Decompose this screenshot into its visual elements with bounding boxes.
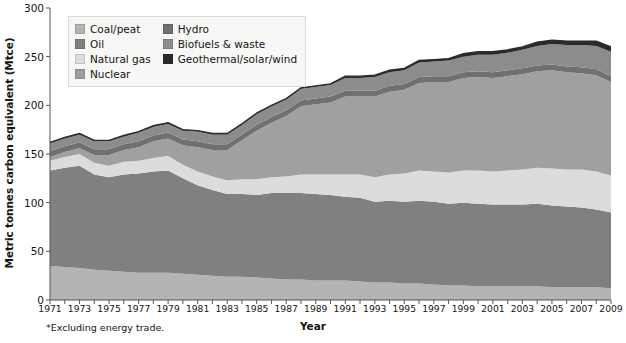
legend-item[interactable]: Biofuels & waste bbox=[163, 37, 297, 51]
x-tick-label: 2009 bbox=[599, 303, 622, 314]
x-tick-label: 1977 bbox=[127, 303, 150, 314]
legend-item-label: Oil bbox=[90, 37, 104, 51]
legend-item[interactable]: Nuclear bbox=[75, 67, 151, 81]
x-tick-label: 1975 bbox=[97, 303, 120, 314]
energy-supply-area-chart: Metric tonnes carbon equivalent (Mtce) 0… bbox=[0, 0, 626, 343]
y-tick-label: 100 bbox=[18, 197, 44, 209]
legend-swatch-icon bbox=[163, 39, 173, 49]
x-tick-label: 1987 bbox=[275, 303, 298, 314]
y-tick-label: 50 bbox=[18, 245, 44, 257]
legend-swatch-icon bbox=[75, 39, 85, 49]
legend-item[interactable]: Natural gas bbox=[75, 52, 151, 66]
legend: Coal/peatHydroOilBiofuels & wasteNatural… bbox=[68, 16, 306, 87]
legend-item-label: Natural gas bbox=[90, 52, 151, 66]
y-tick-label: 150 bbox=[18, 148, 44, 160]
x-tick-label: 2001 bbox=[481, 303, 504, 314]
x-tick-label: 2007 bbox=[570, 303, 593, 314]
x-tick-label: 1999 bbox=[452, 303, 475, 314]
legend-swatch-icon bbox=[163, 24, 173, 34]
legend-item[interactable]: Oil bbox=[75, 37, 151, 51]
legend-item[interactable]: Coal/peat bbox=[75, 22, 151, 36]
y-axis-tick-labels: 050100150200250300 bbox=[14, 0, 44, 343]
x-tick-label: 1979 bbox=[156, 303, 179, 314]
legend-item[interactable]: Geothermal/solar/wind bbox=[163, 52, 297, 66]
x-tick-label: 2005 bbox=[540, 303, 563, 314]
legend-item-label: Biofuels & waste bbox=[178, 37, 266, 51]
legend-item-label: Nuclear bbox=[90, 67, 130, 81]
y-tick-label: 300 bbox=[18, 2, 44, 14]
legend-item-label: Geothermal/solar/wind bbox=[178, 52, 297, 66]
legend-item-label: Coal/peat bbox=[90, 22, 140, 36]
x-tick-label: 1973 bbox=[68, 303, 91, 314]
legend-item-label: Hydro bbox=[178, 22, 209, 36]
legend-swatch-icon bbox=[75, 24, 85, 34]
legend-item[interactable]: Hydro bbox=[163, 22, 297, 36]
x-tick-label: 1995 bbox=[393, 303, 416, 314]
y-tick-label: 250 bbox=[18, 51, 44, 63]
x-tick-label: 1991 bbox=[334, 303, 357, 314]
x-tick-label: 1989 bbox=[304, 303, 327, 314]
legend-swatch-icon bbox=[75, 54, 85, 64]
x-tick-label: 1971 bbox=[38, 303, 61, 314]
x-tick-label: 1985 bbox=[245, 303, 268, 314]
legend-spacer bbox=[163, 67, 297, 81]
x-tick-label: 1993 bbox=[363, 303, 386, 314]
x-tick-label: 2003 bbox=[511, 303, 534, 314]
x-tick-label: 1983 bbox=[215, 303, 238, 314]
y-tick-label: 200 bbox=[18, 99, 44, 111]
footnote: *Excluding energy trade. bbox=[46, 322, 164, 333]
legend-swatch-icon bbox=[163, 54, 173, 64]
legend-swatch-icon bbox=[75, 69, 85, 79]
x-tick-label: 1981 bbox=[186, 303, 209, 314]
x-tick-label: 1997 bbox=[422, 303, 445, 314]
